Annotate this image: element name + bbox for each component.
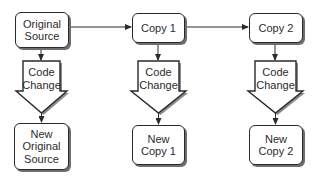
node-label: Copy 2 [259,22,294,35]
block-arrow-label-3: Code Change [255,66,296,91]
node-label: New Original Source [23,128,61,166]
node-new-copy-1: New Copy 1 [132,125,185,165]
node-label: New Copy 2 [259,133,294,158]
node-original-source: Original Source [15,12,69,48]
node-label: Copy 1 [141,22,176,35]
node-copy-1: Copy 1 [132,13,185,43]
node-new-original-source: New Original Source [14,123,69,170]
block-arrow-label-1: Code Change [22,66,61,91]
node-label: Original Source [23,18,61,43]
node-copy-2: Copy 2 [249,13,303,43]
block-arrow-label-2: Code Change [138,66,179,91]
node-label: New Copy 1 [141,133,176,158]
node-new-copy-2: New Copy 2 [249,125,303,165]
